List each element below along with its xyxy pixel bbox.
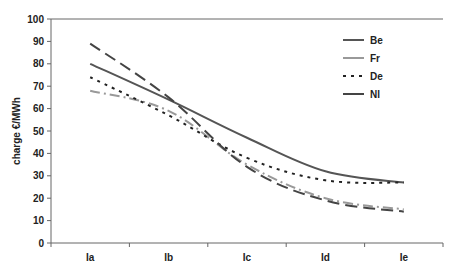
y-tick-label: 40 <box>33 148 45 159</box>
y-tick-label: 70 <box>33 81 45 92</box>
y-tick-label: 90 <box>33 36 45 47</box>
y-axis: 0102030405060708090100 <box>27 14 443 249</box>
x-axis: IaIbIcIdIe <box>51 243 443 263</box>
x-tick-label: Ib <box>164 252 173 263</box>
x-tick-label: Ic <box>243 252 252 263</box>
series-line-fr <box>90 91 404 210</box>
series-line-be <box>90 64 404 183</box>
y-tick-label: 100 <box>27 14 44 25</box>
plot-lines <box>90 44 404 212</box>
chart-canvas: 0102030405060708090100 IaIbIcIdIe BeFrDe… <box>0 0 453 278</box>
legend-label-fr: Fr <box>370 53 380 64</box>
x-tick-label: Ie <box>400 252 409 263</box>
y-tick-label: 30 <box>33 170 45 181</box>
x-tick-label: Id <box>321 252 330 263</box>
legend-label-be: Be <box>370 35 383 46</box>
y-axis-label: charge €/MWh <box>11 97 22 165</box>
series-line-nl <box>90 44 404 212</box>
y-tick-label: 0 <box>38 238 44 249</box>
y-tick-label: 80 <box>33 58 45 69</box>
y-tick-label: 10 <box>33 215 45 226</box>
y-tick-label: 60 <box>33 103 45 114</box>
legend-label-nl: Nl <box>370 89 380 100</box>
legend-label-de: De <box>370 71 383 82</box>
y-tick-label: 20 <box>33 193 45 204</box>
legend: BeFrDeNl <box>343 35 383 100</box>
x-tick-label: Ia <box>86 252 95 263</box>
y-tick-label: 50 <box>33 126 45 137</box>
line-chart: 0102030405060708090100 IaIbIcIdIe BeFrDe… <box>0 0 453 278</box>
